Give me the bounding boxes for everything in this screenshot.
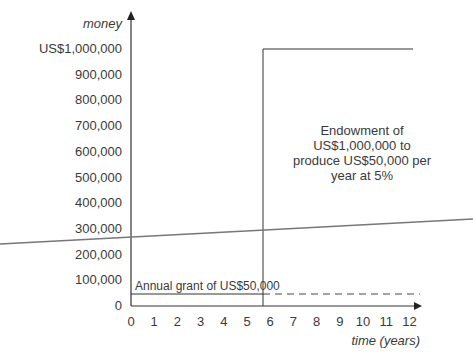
y-tick-label: US$1,000,000: [0, 41, 122, 56]
x-tick-label: 6: [260, 314, 280, 329]
y-tick-label: 700,000: [0, 118, 122, 133]
x-tick-label: 11: [376, 314, 396, 329]
x-tick-label: 2: [167, 314, 187, 329]
y-axis-arrow-icon: [127, 11, 135, 20]
y-tick-label: 800,000: [0, 92, 122, 107]
endowment-note-line-2: US$1,000,000 to: [282, 138, 442, 153]
y-tick-label: 600,000: [0, 144, 122, 159]
y-tick-label: 300,000: [0, 221, 122, 236]
y-tick-label: 900,000: [0, 67, 122, 82]
y-tick-label: 400,000: [0, 195, 122, 210]
endowment-note-line-3: produce US$50,000 per: [282, 153, 442, 168]
grant-annotation: Annual grant of US$50,000: [135, 279, 280, 293]
y-tick-label: 200,000: [0, 247, 122, 262]
endowment-note-line-4: year at 5%: [282, 168, 442, 183]
x-tick-label: 1: [144, 314, 164, 329]
y-tick-label: 500,000: [0, 170, 122, 185]
x-tick-label: 12: [399, 314, 419, 329]
x-tick-label: 5: [237, 314, 257, 329]
y-tick-label: 0: [0, 298, 122, 313]
y-tick-label: 100,000: [0, 272, 122, 287]
x-tick-label: 3: [191, 314, 211, 329]
x-tick-label: 8: [307, 314, 327, 329]
x-tick-label: 7: [283, 314, 303, 329]
x-tick-label: 4: [214, 314, 234, 329]
x-axis-arrow-icon: [414, 302, 422, 310]
x-axis-label: time (years): [320, 333, 420, 348]
x-tick-label: 0: [121, 314, 141, 329]
x-tick-label: 10: [353, 314, 373, 329]
endowment-note-line-1: Endowment of: [282, 123, 442, 138]
x-tick-label: 9: [330, 314, 350, 329]
y-axis-label: money: [70, 16, 122, 31]
endowment-annotation: Endowment of US$1,000,000 to produce US$…: [282, 123, 442, 183]
